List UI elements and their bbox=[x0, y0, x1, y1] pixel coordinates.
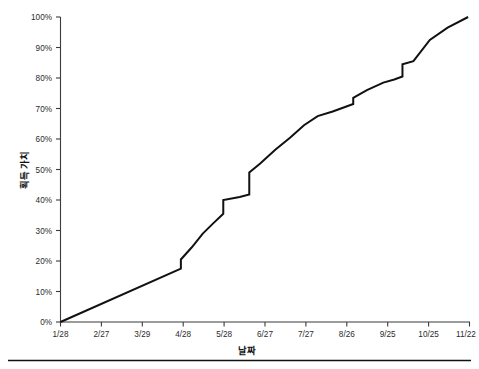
x-tick-label: 6/27 bbox=[257, 330, 273, 339]
y-tick-label: 20% bbox=[36, 257, 52, 266]
y-tick-label: 80% bbox=[36, 74, 52, 83]
x-tick-label: 1/28 bbox=[53, 330, 69, 339]
y-tick-label: 0% bbox=[40, 318, 52, 327]
y-tick-label: 30% bbox=[36, 227, 52, 236]
x-tick-label: 7/27 bbox=[298, 330, 314, 339]
earned-value-line bbox=[61, 17, 469, 322]
y-tick-label: 50% bbox=[36, 166, 52, 175]
x-tick-label: 8/26 bbox=[339, 330, 355, 339]
y-tick-label: 90% bbox=[36, 44, 52, 53]
x-axis-ticks bbox=[61, 322, 470, 327]
y-tick-label: 60% bbox=[36, 135, 52, 144]
y-tick-label: 100% bbox=[31, 13, 52, 22]
y-axis-ticks bbox=[56, 17, 61, 322]
y-axis-tick-labels: 0% 10% 20% 30% 40% 50% 60% 70% 80% 90% 1… bbox=[31, 13, 52, 327]
y-tick-label: 70% bbox=[36, 105, 52, 114]
x-tick-label: 2/27 bbox=[93, 330, 109, 339]
x-tick-label: 11/22 bbox=[456, 330, 476, 339]
x-tick-label: 3/29 bbox=[134, 330, 150, 339]
y-tick-label: 10% bbox=[36, 288, 52, 297]
x-tick-label: 4/28 bbox=[175, 330, 191, 339]
y-tick-label: 40% bbox=[36, 196, 52, 205]
x-axis-title: 날짜 bbox=[238, 345, 256, 356]
chart-figure: 0% 10% 20% 30% 40% 50% 60% 70% 80% 90% 1… bbox=[0, 0, 479, 369]
x-tick-label: 5/28 bbox=[216, 330, 232, 339]
earned-value-s-curve-chart: 0% 10% 20% 30% 40% 50% 60% 70% 80% 90% 1… bbox=[0, 0, 479, 369]
x-tick-label: 10/25 bbox=[418, 330, 439, 339]
x-axis-tick-labels: 1/28 2/27 3/29 4/28 5/28 6/27 7/27 8/26 … bbox=[53, 330, 477, 339]
y-axis-title: 획득 가치 bbox=[19, 151, 30, 190]
x-tick-label: 9/25 bbox=[380, 330, 396, 339]
